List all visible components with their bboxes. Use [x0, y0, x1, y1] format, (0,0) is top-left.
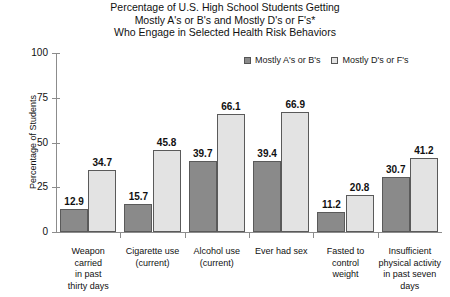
x-category-label-line: carried: [52, 258, 124, 270]
x-category-label-line: Ever had sex: [245, 246, 317, 258]
bar: [317, 212, 345, 232]
x-category-label-line: physical activity: [374, 258, 446, 270]
bar: [189, 161, 217, 232]
bar-value-label: 20.8: [340, 182, 380, 193]
bar: [88, 170, 116, 232]
bar: [217, 114, 245, 232]
x-category-label-line: Cigarette use: [116, 246, 188, 258]
x-category-label-line: Insufficient: [374, 246, 446, 258]
x-category-label: Fasted tocontrolweight: [309, 246, 381, 281]
x-category-label-line: in past seven: [374, 269, 446, 281]
bar: [346, 195, 374, 232]
x-category-label-line: Fasted to: [309, 246, 381, 258]
bar-value-label: 45.8: [147, 137, 187, 148]
x-category-label-line: (current): [116, 258, 188, 270]
x-category-label: Ever had sex: [245, 246, 317, 258]
x-category-label-line: in past: [52, 269, 124, 281]
x-category-label-line: (current): [181, 258, 253, 270]
bar: [253, 161, 281, 232]
x-category-label: Weaponcarriedin pastthirty days: [52, 246, 124, 292]
bar-value-label: 66.9: [275, 99, 315, 110]
bar: [124, 204, 152, 232]
bar: [281, 112, 309, 232]
x-category-label-line: weight: [309, 269, 381, 281]
bar-value-label: 66.1: [211, 101, 251, 112]
x-category-label: Insufficientphysical activityin past sev…: [374, 246, 446, 292]
x-category-label: Alcohol use(current): [181, 246, 253, 269]
bar: [153, 150, 181, 232]
x-category-label-line: control: [309, 258, 381, 270]
x-category-label-line: Weapon: [52, 246, 124, 258]
bar: [410, 158, 438, 232]
bar-value-label: 34.7: [82, 157, 122, 168]
x-category-label-line: days: [374, 281, 446, 293]
x-category-label-line: Alcohol use: [181, 246, 253, 258]
x-category-label: Cigarette use(current): [116, 246, 188, 269]
bar: [382, 177, 410, 232]
x-category-label-line: thirty days: [52, 281, 124, 293]
bar: [60, 209, 88, 232]
bar-value-label: 41.2: [404, 145, 444, 156]
